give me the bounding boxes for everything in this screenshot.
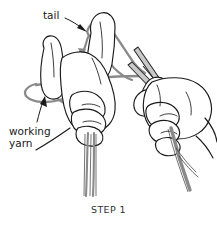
left-little-finger: [76, 126, 103, 146]
step-caption: STEP 1: [0, 205, 217, 216]
knitting-step-illustration: [0, 0, 217, 227]
hanging-strand-2: [93, 133, 94, 196]
annotation-label-tail: tail: [43, 10, 59, 22]
annotation-label-working-yarn: working yarn: [9, 126, 51, 150]
